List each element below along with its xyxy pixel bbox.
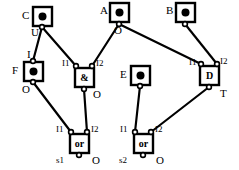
wire-f-to-or1	[33, 82, 71, 132]
pin-d-t[interactable]	[207, 85, 212, 90]
pin-e-o[interactable]	[138, 84, 143, 89]
block-d-port-label-i2: I2	[220, 57, 228, 66]
block-a-dot-icon	[116, 9, 124, 17]
pin-f-o[interactable]	[31, 80, 36, 85]
gate-or-s2-port-label-o: O	[156, 155, 164, 166]
block-f[interactable]	[24, 62, 43, 81]
pin-c-u[interactable]	[40, 25, 45, 30]
pin-d-i2[interactable]	[215, 62, 220, 67]
block-b[interactable]	[176, 3, 195, 22]
wire-and-to-or1	[84, 89, 87, 132]
block-d-symbol: D	[206, 71, 213, 81]
pin-b-o[interactable]	[183, 22, 188, 27]
gate-and-port-label-i2: I2	[96, 59, 104, 68]
gate-or-s2-port-label-s2: s2	[119, 156, 127, 165]
wire-e-to-or2	[135, 86, 140, 132]
block-c-label: C	[22, 10, 29, 21]
gate-and-port-label-i1: I1	[62, 59, 70, 68]
pin-or1-i1[interactable]	[69, 130, 74, 135]
pin-or2-o[interactable]	[141, 153, 146, 158]
gate-or-s1-port-label-o: O	[92, 155, 100, 166]
pin-and-o[interactable]	[82, 87, 87, 92]
pin-d-i1[interactable]	[199, 62, 204, 67]
pin-and-i1[interactable]	[74, 64, 79, 69]
block-e-label: E	[120, 69, 127, 80]
gate-or-s1-port-label-i2: I2	[91, 125, 99, 134]
pin-or1-o[interactable]	[77, 153, 82, 158]
block-b-dot-icon	[182, 9, 190, 17]
block-d-port-label-i1: I1	[189, 58, 197, 67]
pin-and-i2[interactable]	[90, 64, 95, 69]
block-a-port-label-o: O	[114, 25, 122, 36]
block-e-dot-icon	[137, 72, 145, 80]
gate-and-symbol: &	[80, 73, 88, 83]
block-f-label: F	[12, 65, 18, 76]
circuit-diagram: CUAOBFIOEDI1I2T&I1I2OorI1I2s1OorI1I2s2O	[0, 0, 239, 170]
gate-or-s2-symbol: or	[139, 139, 148, 149]
gate-or-s1-port-label-s1: s1	[56, 156, 64, 165]
block-a[interactable]	[110, 3, 129, 22]
pin-or2-i2[interactable]	[149, 130, 154, 135]
block-f-port-label-o: O	[22, 84, 30, 95]
block-f-dot-icon	[30, 68, 38, 76]
block-c-port-label-u: U	[31, 27, 39, 38]
block-f-port-label-i: I	[27, 49, 31, 60]
block-d-port-label-t: T	[220, 88, 227, 99]
block-b-label: B	[166, 5, 173, 16]
gate-and-port-label-o: O	[93, 89, 101, 100]
block-c[interactable]	[33, 7, 52, 26]
gate-or-s2-port-label-i1: I1	[120, 125, 128, 134]
block-a-label: A	[100, 5, 108, 16]
pin-or1-i2[interactable]	[85, 130, 90, 135]
pin-f-i[interactable]	[31, 59, 36, 64]
block-c-dot-icon	[39, 13, 47, 21]
wire-c-to-and	[42, 27, 76, 66]
gate-or-s1-port-label-i1: I1	[56, 125, 64, 134]
gate-or-s1-symbol: or	[75, 139, 84, 149]
gate-or-s2-port-label-i2: I2	[155, 125, 163, 134]
pin-or2-i1[interactable]	[133, 130, 138, 135]
block-e[interactable]	[131, 66, 150, 85]
